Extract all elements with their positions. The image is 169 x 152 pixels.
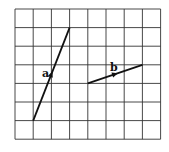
vector-label: b — [110, 61, 118, 74]
vector-label: a — [42, 67, 49, 80]
grid — [15, 9, 161, 139]
vector-grid-diagram: ab — [0, 0, 169, 152]
